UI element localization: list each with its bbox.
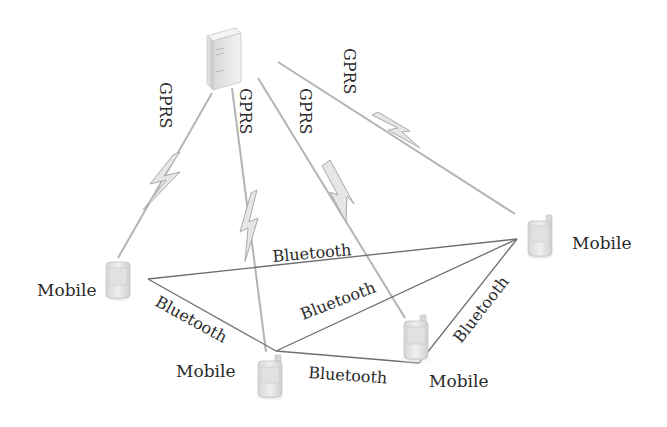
mobile-phone-icon — [520, 215, 560, 261]
server-icon — [207, 28, 241, 90]
bluetooth-link-bottom-mid — [276, 351, 419, 363]
gprs-label-bottom: GPRS — [236, 88, 255, 135]
bluetooth-link-mid-right — [419, 239, 517, 363]
mobile-node-left[interactable]: Mobile — [37, 262, 136, 303]
mobile-label-right: Mobile — [572, 233, 631, 253]
mobile-phone-icon — [396, 315, 436, 364]
network-diagram: Mobile Mobile Mobile Mobile GPRS GPRS GP — [0, 0, 667, 427]
gprs-label-right: GPRS — [340, 48, 359, 95]
gprs-label-mid: GPRS — [296, 88, 315, 135]
mobile-phone-icon — [100, 262, 136, 303]
bluetooth-label-bottom-right: Bluetooth — [298, 278, 379, 324]
mobile-phone-icon — [250, 355, 290, 402]
gprs-link-mid — [258, 78, 405, 318]
mobile-node-right[interactable]: Mobile — [520, 215, 631, 261]
mobile-label-mid: Mobile — [429, 371, 488, 391]
gprs-label-left: GPRS — [156, 82, 175, 129]
server-node[interactable] — [207, 28, 241, 90]
mobile-label-bottom: Mobile — [176, 361, 235, 381]
mobile-node-bottom[interactable]: Mobile — [176, 355, 290, 402]
mobile-label-left: Mobile — [37, 280, 96, 300]
bluetooth-label-bottom-mid: Bluetooth — [308, 363, 388, 387]
bluetooth-label-left-right: Bluetooth — [272, 240, 352, 266]
gprs-link-right — [278, 62, 515, 214]
lightning-bolt-icon — [143, 152, 180, 210]
lightning-bolt-icon — [372, 112, 420, 148]
lightning-bolt-icon — [240, 190, 258, 262]
